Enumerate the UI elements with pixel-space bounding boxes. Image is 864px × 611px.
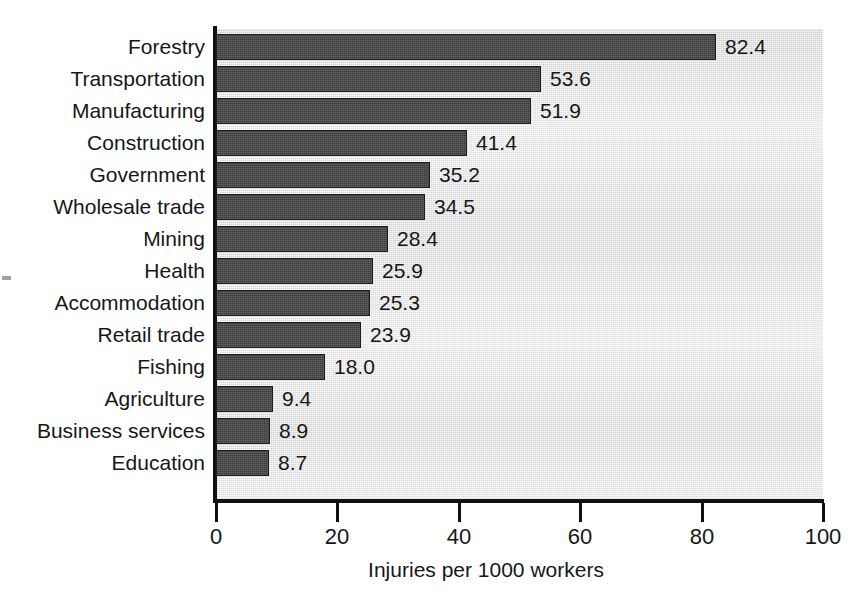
category-label-agriculture: Agriculture <box>0 386 205 412</box>
bar-accommodation <box>216 290 370 316</box>
bar-agriculture <box>216 386 273 412</box>
bar-value-label: 41.4 <box>476 128 517 158</box>
x-tick-mark <box>458 503 461 522</box>
bar-row: 53.6 <box>216 66 823 92</box>
bar-row: 41.4 <box>216 130 823 156</box>
x-tick-mark <box>579 503 582 522</box>
bar-government <box>216 162 430 188</box>
x-tick-mark <box>701 503 704 522</box>
bar-retail-trade <box>216 322 361 348</box>
category-label-forestry: Forestry <box>0 34 205 60</box>
bar-row: 18.0 <box>216 354 823 380</box>
x-tick-label: 100 <box>783 523 863 551</box>
bar-value-label: 34.5 <box>434 192 475 222</box>
bar-value-label: 35.2 <box>439 160 480 190</box>
bar-transportation <box>216 66 541 92</box>
x-tick-label: 20 <box>297 523 377 551</box>
category-label-manufacturing: Manufacturing <box>0 98 205 124</box>
category-label-mining: Mining <box>0 226 205 252</box>
bar-value-label: 53.6 <box>550 64 591 94</box>
bar-row: 8.9 <box>216 418 823 444</box>
bar-row: 25.3 <box>216 290 823 316</box>
bar-mining <box>216 226 388 252</box>
bar-business-services <box>216 418 270 444</box>
bar-value-label: 82.4 <box>725 32 766 62</box>
bar-value-label: 9.4 <box>282 384 311 414</box>
x-tick-label: 40 <box>419 523 499 551</box>
category-label-construction: Construction <box>0 130 205 156</box>
bar-row: 34.5 <box>216 194 823 220</box>
bar-health <box>216 258 373 284</box>
bar-construction <box>216 130 467 156</box>
x-tick-mark <box>215 503 218 522</box>
x-tick-mark <box>822 503 825 522</box>
bar-row: 8.7 <box>216 450 823 476</box>
category-label-government: Government <box>0 162 205 188</box>
category-label-accommodation: Accommodation <box>0 290 205 316</box>
bar-wholesale-trade <box>216 194 425 220</box>
x-axis-title: Injuries per 1000 workers <box>0 556 864 584</box>
category-label-business-services: Business services <box>0 418 205 444</box>
bar-row: 28.4 <box>216 226 823 252</box>
bar-value-label: 23.9 <box>370 320 411 350</box>
bar-chart-figure: 82.453.651.941.435.234.528.425.925.323.9… <box>0 0 864 611</box>
bar-fishing <box>216 354 325 380</box>
category-label-retail-trade: Retail trade <box>0 322 205 348</box>
x-tick-label: 60 <box>540 523 620 551</box>
bar-forestry <box>216 34 716 60</box>
bar-value-label: 25.3 <box>379 288 420 318</box>
bar-row: 9.4 <box>216 386 823 412</box>
bar-row: 25.9 <box>216 258 823 284</box>
category-label-transportation: Transportation <box>0 66 205 92</box>
bar-value-label: 18.0 <box>334 352 375 382</box>
bar-value-label: 28.4 <box>397 224 438 254</box>
x-tick-label: 80 <box>662 523 742 551</box>
x-tick-label: 0 <box>176 523 256 551</box>
bar-value-label: 8.7 <box>278 448 307 478</box>
category-label-health: Health <box>0 258 205 284</box>
bar-row: 23.9 <box>216 322 823 348</box>
category-label-education: Education <box>0 450 205 476</box>
category-label-wholesale-trade: Wholesale trade <box>0 194 205 220</box>
bar-manufacturing <box>216 98 531 124</box>
x-tick-mark <box>336 503 339 522</box>
bar-value-label: 51.9 <box>540 96 581 126</box>
bar-education <box>216 450 269 476</box>
bar-row: 35.2 <box>216 162 823 188</box>
bar-value-label: 8.9 <box>279 416 308 446</box>
bar-value-label: 25.9 <box>382 256 423 286</box>
bar-row: 82.4 <box>216 34 823 60</box>
category-label-fishing: Fishing <box>0 354 205 380</box>
x-axis-line <box>213 499 824 503</box>
bar-row: 51.9 <box>216 98 823 124</box>
